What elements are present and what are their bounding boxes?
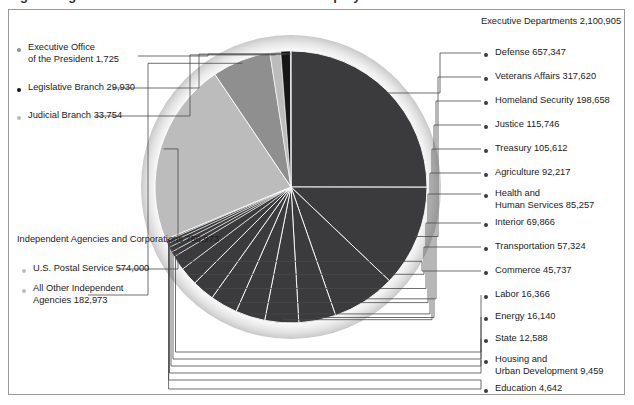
- label-line-1: Veterans Affairs 317,620: [495, 71, 596, 83]
- label-line-1: All Other Independent: [33, 283, 123, 295]
- label-justice[interactable]: Justice 115,746: [495, 119, 559, 131]
- label-line-1: Health and: [495, 188, 594, 200]
- group-line-2: 2,100,905: [580, 16, 621, 26]
- label-line-1: Justice 115,746: [495, 119, 559, 131]
- label-line-1: Commerce 45,737: [495, 265, 571, 277]
- label-line-1: Interior 69,866: [495, 217, 555, 229]
- label-line-2: Urban Development 9,459: [495, 366, 604, 378]
- label-line-1: Housing and: [495, 354, 604, 366]
- figure-canvas: Figure Organization of the Federal Gover…: [0, 0, 634, 405]
- group-header-independent-agencies: Independent Agencies and Corporations 75…: [17, 234, 219, 246]
- group-line-1: Executive Departments: [481, 16, 577, 26]
- label-veterans-affairs[interactable]: Veterans Affairs 317,620: [495, 71, 596, 83]
- label-commerce[interactable]: Commerce 45,737: [495, 265, 571, 277]
- label-housing-and[interactable]: Housing andUrban Development 9,459: [495, 354, 604, 377]
- label-legislative-branch[interactable]: Legislative Branch 29,930: [28, 82, 135, 94]
- label-line-2: Human Services 85,257: [495, 200, 594, 212]
- label-treasury[interactable]: Treasury 105,612: [495, 143, 568, 155]
- label-transportation[interactable]: Transportation 57,324: [495, 241, 586, 253]
- label-all-other-independent-agencies[interactable]: All Other Independent Agencies 182,973: [33, 283, 123, 306]
- label-line-1: U.S. Postal Service 574,000: [33, 263, 149, 275]
- label-education[interactable]: Education 4,642: [495, 383, 562, 395]
- label-line-1: Judicial Branch 33,754: [28, 110, 122, 122]
- group-header-executive-departments: Executive Departments 2,100,905: [481, 16, 621, 28]
- pie-slices: Defense 657,347Veterans Affairs 317,620H…: [155, 51, 427, 323]
- label-judicial-branch[interactable]: Judicial Branch 33,754: [28, 110, 122, 122]
- label-homeland-security[interactable]: Homeland Security 198,658: [495, 95, 610, 107]
- label-line-1: State 12,588: [495, 333, 548, 345]
- label-labor[interactable]: Labor 16,366: [495, 289, 550, 301]
- group-line-1: Independent Agencies: [17, 234, 109, 244]
- label-line-1: Transportation 57,324: [495, 241, 586, 253]
- group-line-2: and Corporations 756,973: [112, 234, 220, 244]
- label-defense[interactable]: Defense 657,347: [495, 47, 566, 59]
- label-state[interactable]: State 12,588: [495, 333, 548, 345]
- label-energy[interactable]: Energy 16,140: [495, 311, 555, 323]
- label-line-1: Education 4,642: [495, 383, 562, 395]
- label-executive-office[interactable]: Executive Office of the President 1,725: [28, 42, 119, 65]
- label-line-1: Defense 657,347: [495, 47, 566, 59]
- label-line-1: Labor 16,366: [495, 289, 550, 301]
- label-line-2: Agencies 182,973: [33, 295, 123, 307]
- pie-slice[interactable]: Defense 657,347: [291, 51, 427, 187]
- label-line-2: of the President 1,725: [28, 54, 119, 66]
- label-line-1: Agriculture 92,217: [495, 167, 570, 179]
- label-agriculture[interactable]: Agriculture 92,217: [495, 167, 570, 179]
- label-line-1: Energy 16,140: [495, 311, 555, 323]
- label-interior[interactable]: Interior 69,866: [495, 217, 555, 229]
- label-health-and[interactable]: Health andHuman Services 85,257: [495, 188, 594, 211]
- label-line-1: Legislative Branch 29,930: [28, 82, 135, 94]
- label-line-1: Executive Office: [28, 42, 119, 54]
- label-usps[interactable]: U.S. Postal Service 574,000: [33, 263, 149, 275]
- label-line-1: Treasury 105,612: [495, 143, 568, 155]
- label-line-1: Homeland Security 198,658: [495, 95, 610, 107]
